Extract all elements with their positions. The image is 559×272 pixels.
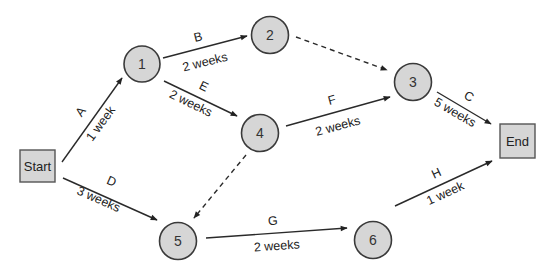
edge-d-duration: 3 weeks <box>75 184 123 215</box>
node-1: 1 <box>124 46 160 82</box>
edge-g-duration: 2 weeks <box>253 237 300 254</box>
node-3: 3 <box>395 64 432 101</box>
node-1-label: 1 <box>138 56 146 72</box>
edge-h-activity: H <box>429 165 443 182</box>
edge-a-activity: A <box>73 104 90 120</box>
edge-e: E 2 weeks <box>164 78 237 119</box>
node-4: 4 <box>242 115 279 152</box>
end-label: End <box>506 134 529 149</box>
edge-a-duration: 1 week <box>83 103 118 144</box>
project-network-diagram: A 1 week B 2 weeks E 2 weeks F 2 weeks C… <box>0 0 559 272</box>
edge-a: A 1 week <box>62 78 122 162</box>
node-start: Start <box>20 150 55 182</box>
node-3-label: 3 <box>409 74 417 90</box>
node-5: 5 <box>160 223 197 260</box>
edge-e-activity: E <box>197 78 211 94</box>
edge-h: H 1 week <box>395 161 492 208</box>
edge-g-activity: G <box>267 214 278 229</box>
edge-dummy-4-5 <box>194 155 246 218</box>
edge-g: G 2 weeks <box>206 214 347 255</box>
edge-b-duration: 2 weeks <box>181 50 229 75</box>
node-4-label: 4 <box>256 125 264 141</box>
node-2: 2 <box>252 17 289 54</box>
edge-d-activity: D <box>105 173 119 189</box>
edge-c-activity: C <box>462 88 477 105</box>
edge-d: D 3 weeks <box>63 173 157 220</box>
node-6: 6 <box>355 222 392 259</box>
edge-b: B 2 weeks <box>163 29 247 74</box>
edge-f-duration: 2 weeks <box>314 113 362 138</box>
edge-a-line <box>62 78 122 162</box>
edge-e-duration: 2 weeks <box>167 87 214 120</box>
edge-f: F 2 weeks <box>286 92 390 139</box>
dummy-edge-4-5-line <box>194 155 246 218</box>
edge-f-activity: F <box>326 92 337 108</box>
edge-dummy-2-3 <box>296 37 387 70</box>
dummy-edge-2-3-line <box>296 37 387 70</box>
edge-c: C 5 weeks <box>432 88 491 130</box>
node-5-label: 5 <box>174 233 182 249</box>
start-label: Start <box>24 159 52 174</box>
node-2-label: 2 <box>266 27 274 43</box>
node-6-label: 6 <box>369 232 377 248</box>
edge-g-line <box>206 228 347 238</box>
node-end: End <box>500 124 535 158</box>
edge-b-activity: B <box>192 29 203 45</box>
